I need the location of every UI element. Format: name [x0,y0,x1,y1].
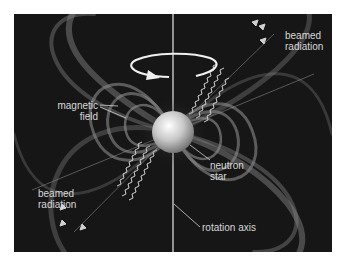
pulsar-diagram: beamed radiation magnetic field neutron … [14,14,332,252]
beamed-radiation-top-label: beamed radiation [285,30,323,52]
label-line: radiation [285,41,323,52]
label-line: star [210,171,244,182]
label-line: beamed [38,188,76,199]
beamed-radiation-bottom-label: beamed radiation [38,188,76,210]
magnetic-field-label: magnetic field [56,100,98,122]
rotation-axis-label: rotation axis [202,222,256,233]
rotation-arrow-icon [131,54,216,80]
neutron-star-label: neutron star [210,160,244,182]
label-line: field [56,111,98,122]
label-line: radiation [38,199,76,210]
label-line: beamed [285,30,323,41]
neutron-star-sphere [152,111,194,153]
label-line: magnetic [56,100,98,111]
label-line: neutron [210,160,244,171]
